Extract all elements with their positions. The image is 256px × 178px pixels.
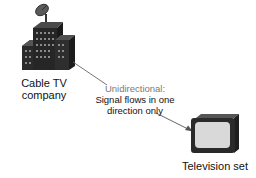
destination-label: Television set: [180, 160, 250, 172]
building-icon: [22, 22, 75, 70]
source-label-line1: Cable TV: [14, 77, 74, 89]
connection-line2: direction only: [95, 105, 175, 116]
source-label: Cable TV company: [14, 77, 74, 101]
source-label-line2: company: [14, 89, 74, 101]
satellite-dish-icon: [33, 2, 50, 22]
connector-line: [73, 62, 107, 85]
television-icon: [191, 114, 239, 153]
connection-line1: Signal flows in one: [95, 94, 175, 105]
connection-heading: Unidirectional:: [95, 83, 175, 94]
connection-note: Unidirectional: Signal flows in one dire…: [95, 83, 175, 116]
